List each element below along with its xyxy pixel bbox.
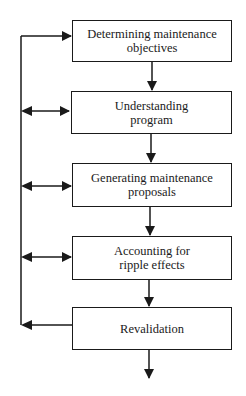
step-label: Determining maintenance objectives — [77, 27, 227, 55]
step-determining-objectives: Determining maintenance objectives — [72, 20, 232, 62]
arrowhead-left-step3 — [21, 181, 32, 191]
step-label: Revalidation — [120, 322, 184, 336]
step-generating-proposals: Generating maintenance proposals — [72, 163, 232, 207]
arrowhead-left-step4 — [21, 252, 32, 262]
step-label: Accounting for ripple effects — [102, 244, 202, 272]
step-accounting-ripple-effects: Accounting for ripple effects — [72, 236, 232, 280]
step-label: Understanding program — [107, 99, 197, 127]
arrowhead-left-step5 — [21, 320, 32, 330]
step-understanding-program: Understanding program — [71, 91, 232, 134]
step-revalidation: Revalidation — [72, 307, 232, 350]
step-label: Generating maintenance proposals — [77, 171, 227, 199]
arrowhead-left-step2 — [21, 106, 32, 116]
